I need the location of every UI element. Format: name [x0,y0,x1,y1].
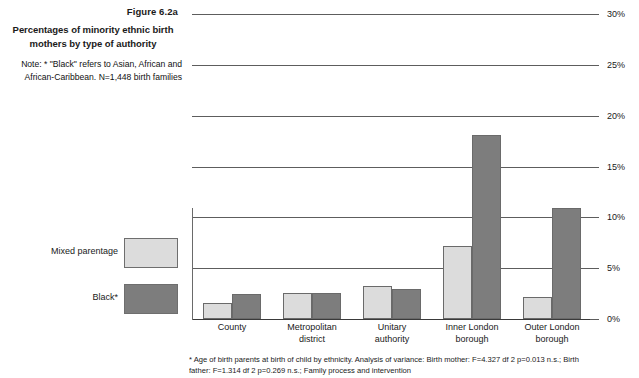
page-title: Percentages of minority ethnic birth mot… [4,23,182,50]
y-axis-line [192,208,193,320]
x-axis-label-line: borough [502,334,602,346]
y-tick-mark-10% [590,217,599,218]
figure-note: Note: * "Black" refers to Asian, African… [2,58,182,83]
bar [472,135,501,319]
x-axis-label: Outer Londonborough [502,322,602,345]
y-tick-mark-30% [590,14,599,15]
legend-label-black: Black* [92,292,118,302]
gridline-15% [192,167,592,168]
y-axis-label-5%: 5% [607,263,620,273]
figure-caption-panel: Figure 6.2a Percentages of minority ethn… [0,0,186,340]
footnote-line-1: * Age of birth parents at birth of child… [189,355,639,365]
gridline-30% [192,14,592,15]
bar [203,303,232,319]
bar [363,286,392,319]
y-axis-label-30%: 30% [607,9,625,19]
bar [552,208,581,319]
bar [312,293,341,319]
bar [232,294,261,319]
x-axis-label-line: Outer London [502,322,602,334]
legend-item-mixed-parentage: Mixed parentage [0,238,186,268]
y-axis-label-25%: 25% [607,60,625,70]
bar [283,293,312,319]
gridline-5% [192,268,592,269]
gridline-25% [192,65,592,66]
gridline-10% [192,217,592,218]
legend-label-mixed-parentage: Mixed parentage [51,246,118,256]
y-axis-label-20%: 20% [607,111,625,121]
legend-item-black: Black* [0,284,186,314]
legend-swatch-black [124,284,178,314]
bar [523,297,552,319]
y-tick-mark-20% [590,116,599,117]
y-tick-mark-25% [590,65,599,66]
gridline-20% [192,116,592,117]
figure-number: Figure 6.2a [127,6,178,17]
y-axis-label-10%: 10% [607,212,625,222]
gridline-0% [192,319,592,320]
footnote-line-2: father: F=1.314 df 2 p=0.269 n.s.; Famil… [189,366,639,376]
y-axis-label-0%: 0% [607,314,620,324]
y-tick-mark-0% [590,319,599,320]
plot-area: 0%5%10%15%20%25%30% CountyMetropolitandi… [186,0,594,340]
bar-chart: 0%5%10%15%20%25%30% CountyMetropolitandi… [186,0,639,340]
y-axis-label-15%: 15% [607,162,625,172]
y-tick-mark-5% [590,268,599,269]
bar [443,246,472,319]
y-tick-mark-15% [590,167,599,168]
bar [392,289,421,320]
legend-swatch-mixed-parentage [124,238,178,268]
